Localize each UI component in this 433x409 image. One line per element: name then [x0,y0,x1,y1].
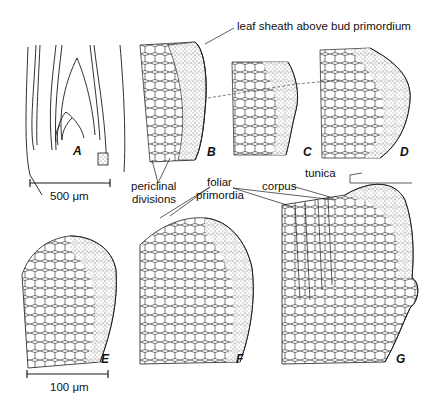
scale-label-500: 500 μm [50,190,89,202]
annotation-corpus: corpus [262,180,297,193]
panel-c-drawing [232,62,298,155]
panel-g-drawing [282,184,418,364]
panel-f-drawing [140,218,253,364]
annotation-foliar: foliar [207,176,232,189]
panel-label-e: E [101,352,109,366]
panel-a-drawing [26,45,125,195]
annotation-periclinal: periclinal [131,180,176,193]
panel-label-d: D [400,145,409,159]
panel-label-f: F [236,352,243,366]
panel-label-b: B [207,145,216,159]
annotation-tunica: tunica [305,167,336,180]
bud-region-marker [98,153,108,165]
scale-label-100: 100 μm [50,381,89,393]
botanical-figure [0,0,433,409]
panel-label-a: A [73,144,82,158]
panel-label-g: G [396,352,405,366]
panel-d-drawing [320,48,410,158]
annotation-primordia: primordia [196,189,244,202]
scale-bar-100 [27,370,108,378]
annotation-divisions: divisions [132,193,176,206]
panel-label-c: C [303,145,312,159]
scale-bar-500 [30,179,110,187]
panel-b-drawing [140,42,206,162]
annotation-leaf-sheath: leaf sheath above bud primordium [237,20,411,33]
panel-e-drawing [22,236,116,368]
